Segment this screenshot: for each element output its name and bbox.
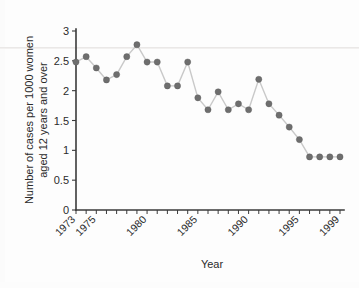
data-point (174, 83, 180, 89)
y-tick-label: 1 (63, 144, 69, 156)
line-chart: 00.511.522.53 19731975198019851990199519… (0, 0, 359, 288)
data-point (73, 59, 79, 65)
data-point (215, 89, 221, 95)
data-point (154, 59, 160, 65)
x-axis-title: Year (201, 258, 224, 270)
data-point (103, 77, 109, 83)
y-axis-title-line2: aged 12 years and over (37, 62, 49, 178)
data-point (93, 65, 99, 71)
data-point (337, 154, 343, 160)
data-point (144, 59, 150, 65)
data-point (124, 54, 130, 60)
x-tick-label: 1973 (52, 213, 77, 238)
x-axis: 1973197519801985199019951999 (52, 210, 344, 238)
data-point (134, 42, 140, 48)
data-point (114, 71, 120, 77)
x-tick-label: 1990 (225, 213, 250, 238)
data-point (327, 154, 333, 160)
x-tick-label: 1975 (73, 213, 98, 238)
data-point (164, 83, 170, 89)
y-tick-label: 0.5 (54, 174, 69, 186)
data-point (317, 154, 323, 160)
x-tick-label: 1980 (123, 213, 148, 238)
data-point (185, 59, 191, 65)
x-tick-label: 1985 (174, 213, 199, 238)
y-axis: 00.511.522.53 (54, 25, 76, 216)
data-point (195, 95, 201, 101)
data-point (266, 101, 272, 107)
y-tick-label: 2.5 (54, 55, 69, 67)
chart-figure: 00.511.522.53 19731975198019851990199519… (0, 0, 359, 288)
data-point (225, 107, 231, 113)
data-point (235, 101, 241, 107)
y-tick-label: 2 (63, 85, 69, 97)
data-point (205, 107, 211, 113)
data-series (73, 42, 343, 160)
data-point (306, 154, 312, 160)
y-tick-label: 1.5 (54, 115, 69, 127)
data-point (246, 107, 252, 113)
axis-titles: YearNumber of cases per 1000 womenaged 1… (23, 36, 223, 270)
data-point (276, 112, 282, 118)
data-point (256, 76, 262, 82)
x-tick-label: 1995 (276, 213, 301, 238)
data-point (83, 54, 89, 60)
y-axis-title-line1: Number of cases per 1000 women (23, 36, 35, 204)
x-tick-label: 1999 (316, 213, 341, 238)
data-point (296, 136, 302, 142)
y-tick-label: 3 (63, 25, 69, 37)
data-point (286, 124, 292, 130)
